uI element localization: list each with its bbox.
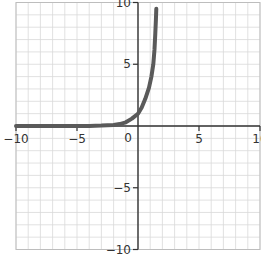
data-curve (16, 9, 156, 126)
chart: −10−5510−10−55100 (0, 0, 261, 264)
x-tick-label: 5 (195, 132, 203, 146)
y-tick-label: −10 (106, 243, 131, 257)
x-tick-label: −5 (68, 132, 86, 146)
tick-labels: −10−5510−10−55100 (3, 0, 261, 257)
origin-label: 0 (124, 131, 132, 145)
x-tick-label: 10 (252, 132, 261, 146)
y-tick-label: 5 (123, 57, 131, 71)
y-tick-label: 10 (116, 0, 131, 10)
y-tick-label: −5 (113, 181, 131, 195)
x-tick-label: −10 (3, 132, 28, 146)
